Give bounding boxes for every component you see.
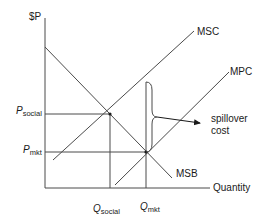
social-equilibrium-point <box>108 112 111 115</box>
msb-label: MSB <box>176 169 198 179</box>
q-mkt-label: Qmkt <box>140 202 160 214</box>
spillover-brace <box>146 82 157 152</box>
mpc-label: MPC <box>230 67 252 77</box>
x-axis-label: Quantity <box>213 183 250 193</box>
q-social-label: Qsocial <box>93 204 120 216</box>
p-social-label: Psocial <box>16 106 42 118</box>
spillover-cost-label-line2: cost <box>211 126 229 136</box>
msc-label: MSC <box>197 27 219 37</box>
spillover-cost-label-line1: spillover <box>211 114 248 124</box>
msc-curve <box>53 31 194 160</box>
msb-curve <box>45 47 172 178</box>
y-axis-label: $P <box>29 12 41 22</box>
p-mkt-label: Pmkt <box>23 145 42 157</box>
